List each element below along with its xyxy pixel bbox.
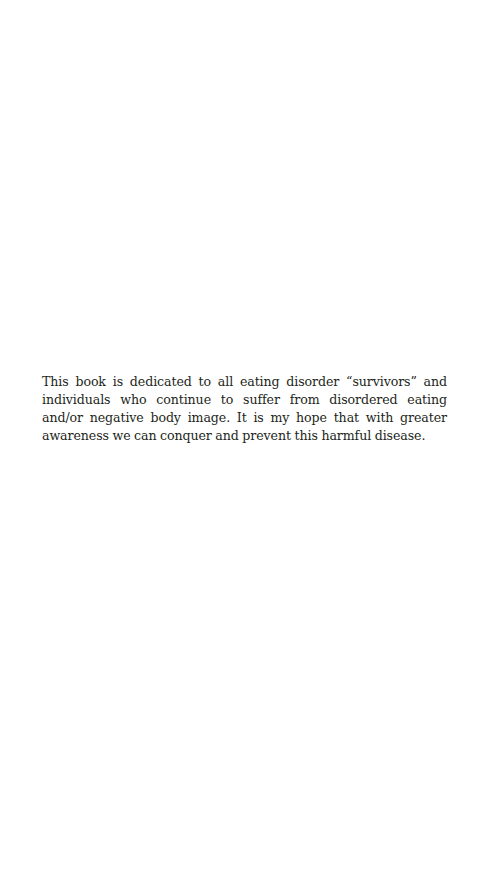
book-page: This book is dedicated to all eating dis… bbox=[0, 0, 481, 885]
dedication-paragraph: This book is dedicated to all eating dis… bbox=[42, 373, 447, 445]
